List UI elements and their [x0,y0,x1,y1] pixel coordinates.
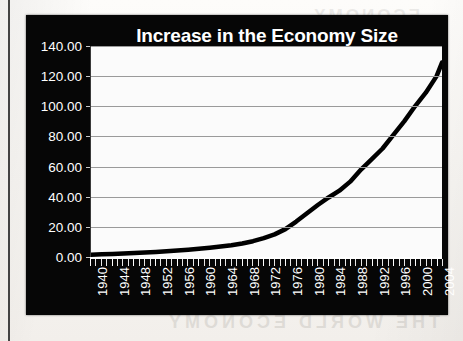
y-axis-tick-label: 60.00 [48,159,82,174]
x-axis-tick [106,259,107,266]
x-axis-tick [431,259,432,266]
x-axis-tick [225,259,226,266]
x-axis-tick [139,259,140,266]
chart-title: Increase in the Economy Size [92,25,442,47]
x-axis-tick [258,259,259,266]
x-axis-tick [209,259,210,266]
gridline [91,167,442,168]
x-axis-tick [187,259,188,266]
x-axis-tick [95,259,96,266]
x-axis-tick [177,259,178,266]
x-axis-tick [372,259,373,266]
y-axis-tick-label: 80.00 [48,129,82,144]
x-axis-tick [155,259,156,266]
x-axis-tick [112,259,113,266]
x-axis-tick [328,259,329,266]
x-axis-tick-label: 1980 [312,267,327,296]
x-axis-tick [220,259,221,266]
chart-panel: Increase in the Economy Size 0.0020.0040… [26,15,448,315]
x-axis-tick [122,259,123,266]
x-axis-tick-label: 1968 [247,267,262,296]
x-axis-tick-label: 1956 [182,267,197,296]
x-axis-tick [285,259,286,266]
x-axis-tick [242,259,243,266]
x-axis-tick [350,259,351,266]
x-axis-tick [236,259,237,266]
x-axis-tick [182,259,183,266]
x-axis-tick [301,259,302,266]
x-axis-tick [280,259,281,266]
x-axis-tick-label: 1948 [138,267,153,296]
x-axis-tick [355,259,356,266]
x-axis-tick [307,259,308,266]
gridline [91,227,442,228]
x-axis-tick-label: 1988 [355,267,370,296]
x-axis-tick [231,259,232,266]
x-axis-tick [382,259,383,266]
x-axis-tick [193,259,194,266]
x-axis-tick [312,259,313,266]
x-axis-tick [290,259,291,266]
x-axis-tick [366,259,367,266]
x-axis-tick-label: 1960 [203,267,218,296]
x-axis-tick [274,259,275,266]
x-axis-tick-label: 2000 [420,267,435,296]
gridline [91,76,442,77]
x-axis-tick [399,259,400,266]
x-axis-ticks [90,259,442,266]
x-axis-tick [171,259,172,266]
x-axis-tick [252,259,253,266]
x-axis-tick-label: 1952 [160,267,175,296]
x-axis-tick [393,259,394,266]
x-axis-tick [128,259,129,266]
x-axis-tick-label: 1944 [117,267,132,296]
x-axis-tick [317,259,318,266]
x-axis-tick [90,259,91,266]
x-axis-tick [101,259,102,266]
y-axis-tick-label: 20.00 [48,219,82,234]
x-axis-tick-label: 1996 [398,267,413,296]
x-axis-tick [361,259,362,266]
y-axis: 0.0020.0040.0060.0080.00100.00120.00140.… [26,46,86,257]
x-axis-tick-label: 1972 [268,267,283,296]
x-axis-tick [420,259,421,266]
gridline [91,197,442,198]
gridline [91,136,442,137]
x-axis-tick [160,259,161,266]
x-axis-tick [166,259,167,266]
x-axis-tick-label: 1940 [95,267,110,296]
x-axis-tick [296,259,297,266]
x-axis-tick [410,259,411,266]
x-axis-tick [339,259,340,266]
gridline [91,46,442,47]
x-axis-tick [442,259,443,266]
x-axis-tick [415,259,416,266]
x-axis-tick [426,259,427,266]
x-axis-tick [198,259,199,266]
x-axis-tick [133,259,134,266]
x-axis-tick [377,259,378,266]
y-axis-tick-label: 120.00 [41,69,82,84]
x-axis-tick [117,259,118,266]
x-axis-labels: 1940194419481952195619601964196819721976… [90,267,442,313]
x-axis-tick [388,259,389,266]
x-axis-tick [345,259,346,266]
scanned-page: ECONOMY THE WORLD ECONOMY Increase in th… [0,0,463,341]
y-axis-tick-label: 40.00 [48,189,82,204]
x-axis-tick-label: 1976 [290,267,305,296]
x-axis-tick [437,259,438,266]
x-axis-tick [215,259,216,266]
y-axis-tick-label: 0.00 [56,250,82,265]
x-axis-tick [144,259,145,266]
x-axis-tick [263,259,264,266]
x-axis-tick-label: 1984 [333,267,348,296]
x-axis-tick [247,259,248,266]
bleed-through-text-bottom: THE WORLD ECONOMY [40,312,440,336]
gridline [91,106,442,107]
y-axis-tick-label: 140.00 [41,39,82,54]
x-axis-tick [204,259,205,266]
x-axis-tick-label: 1964 [225,267,240,296]
page-margin-rule [8,0,10,341]
x-axis-tick-label: 2004 [442,267,457,296]
x-axis-tick [404,259,405,266]
